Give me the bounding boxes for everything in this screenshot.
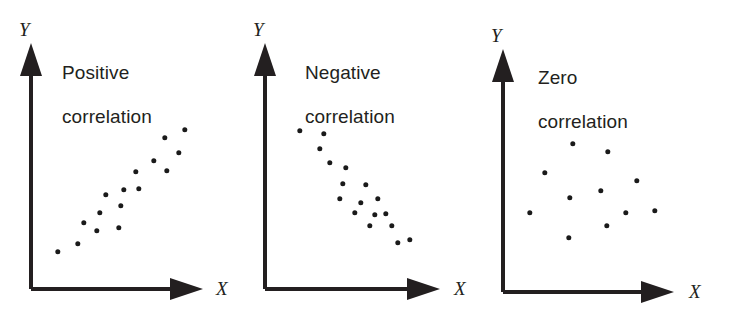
x-axis-label-negative: X [454,279,466,298]
y-axis-arrowhead-negative [254,43,276,76]
x-axis-label-zero: X [689,282,701,301]
y-axis-arrowhead-zero [492,49,514,82]
x-axis-arrowhead-positive [170,278,203,300]
x-axis-arrowhead-zero [641,281,674,303]
y-axis-arrowhead-positive [20,43,42,76]
y-axis-label-positive: Y [19,20,30,39]
panel-title-zero-line2: correlation [538,111,628,132]
panel-title-negative: Negative correlation [305,40,395,128]
panel-title-positive-line1: Positive [62,62,129,83]
panel-title-zero-line1: Zero [538,67,577,88]
panel-zero-correlation: Y X Zero correlation [488,0,731,316]
panel-title-negative-line1: Negative [305,62,381,83]
panel-positive-correlation: Y X Positive correlation [0,0,244,316]
panel-title-zero: Zero correlation [538,45,628,133]
x-axis-arrowhead-negative [407,278,440,300]
panel-title-negative-line2: correlation [305,106,395,127]
y-axis-label-zero: Y [491,26,502,45]
panel-title-positive: Positive correlation [62,40,152,128]
panel-negative-correlation: Y X Negative correlation [244,0,488,316]
y-axis-label-negative: Y [253,20,264,39]
x-axis-label-positive: X [216,279,228,298]
panel-title-positive-line2: correlation [62,106,152,127]
correlation-scatterplots-figure: Y X Positive correlation Y X Negative co… [0,0,731,316]
